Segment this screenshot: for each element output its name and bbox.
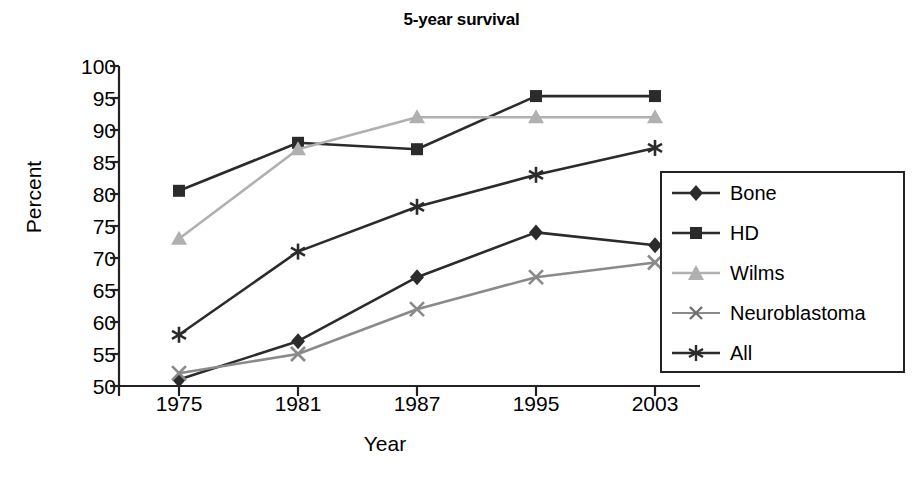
data-point-marker (410, 269, 424, 285)
series-line (179, 232, 655, 379)
series-all (172, 140, 662, 343)
data-point-marker (173, 185, 185, 197)
diamond-marker-icon (670, 182, 722, 204)
data-point-marker (291, 333, 305, 349)
data-point-marker (172, 327, 186, 343)
legend-label-bone: Bone (730, 182, 777, 205)
data-point-marker (529, 224, 543, 240)
star-marker-icon (670, 342, 722, 364)
data-point-marker (530, 90, 542, 102)
data-point-marker (411, 143, 423, 155)
legend-label-hd: HD (730, 222, 759, 245)
legend-item-neuroblastoma[interactable]: Neuroblastoma (662, 293, 903, 333)
series-line (179, 148, 655, 335)
legend-item-all[interactable]: All (662, 333, 903, 373)
legend-item-bone[interactable]: Bone (662, 173, 903, 213)
legend-label-wilms: Wilms (730, 262, 784, 285)
cross-marker-icon (670, 302, 722, 324)
chart-container: 5-year survival Percent Year 100 95 90 8… (0, 0, 923, 482)
data-point-marker (291, 244, 305, 260)
square-marker-icon (670, 222, 722, 244)
legend-label-neuroblastoma: Neuroblastoma (730, 302, 866, 325)
series-wilms (171, 109, 663, 245)
data-point-marker (649, 90, 661, 102)
legend-item-wilms[interactable]: Wilms (662, 253, 903, 293)
chart-legend: Bone HD Wilms (660, 171, 905, 373)
data-point-marker (171, 231, 187, 245)
legend-item-hd[interactable]: HD (662, 213, 903, 253)
series-line (179, 117, 655, 239)
triangle-marker-icon (670, 262, 722, 284)
legend-label-all: All (730, 342, 752, 365)
series-hd (173, 90, 661, 197)
